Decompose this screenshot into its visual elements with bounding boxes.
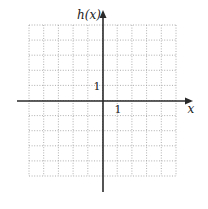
y-axis-label: h(x) bbox=[77, 8, 101, 22]
y-tick-label-1: 1 bbox=[94, 80, 101, 93]
axes bbox=[17, 10, 193, 192]
x-axis-label: x bbox=[188, 102, 195, 116]
coordinate-grid-chart: h(x) x 1 1 bbox=[0, 0, 208, 209]
x-tick-label-1: 1 bbox=[115, 103, 122, 116]
